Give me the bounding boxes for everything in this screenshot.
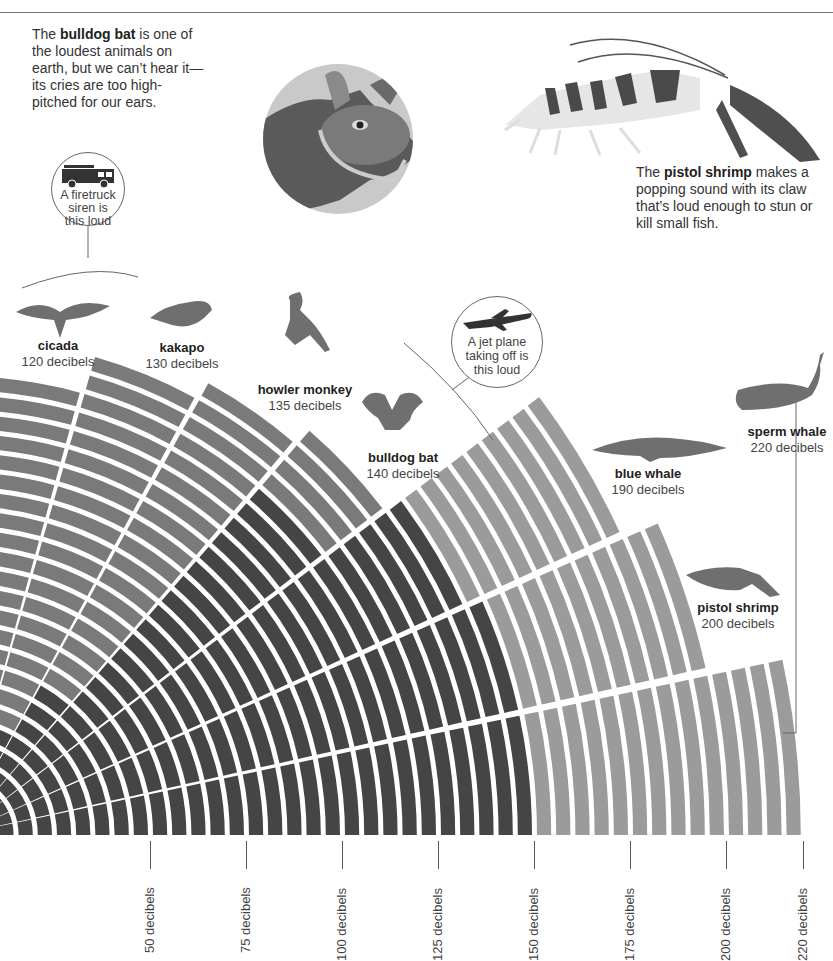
bar-segment xyxy=(224,776,244,835)
bar-segment xyxy=(130,795,148,835)
animal-decibels: 200 decibels xyxy=(702,616,775,631)
bar-segment xyxy=(205,780,225,835)
axis-tick-label: 100 decibels xyxy=(334,888,349,961)
jet-bubble: A jet plane taking off is this loud xyxy=(451,296,543,388)
bar-segment xyxy=(48,789,68,813)
bar-segment xyxy=(0,645,8,666)
animal-decibels: 120 decibels xyxy=(22,354,95,369)
sperm-whale-icon xyxy=(736,352,824,410)
axis-tick-line xyxy=(342,841,343,869)
animal-name: kakapo xyxy=(112,340,252,356)
bar-segment xyxy=(17,819,33,835)
axis-tick-label: 200 decibels xyxy=(718,888,733,961)
axis-tick-line xyxy=(150,841,151,869)
axis-tick-line xyxy=(246,841,247,869)
animal-label-cicada: cicada120 decibels xyxy=(0,338,128,370)
axis-tick-label: 175 decibels xyxy=(622,888,637,961)
animal-label-bluewhale: blue whale190 decibels xyxy=(578,466,718,498)
animal-name: sperm whale xyxy=(717,424,833,440)
axis-tick-label: 75 decibels xyxy=(238,888,253,954)
bar-segment xyxy=(84,773,106,805)
firetruck-icon xyxy=(58,163,118,189)
bar-segment xyxy=(186,784,205,835)
bar-segment xyxy=(168,788,187,835)
bar-segment xyxy=(261,768,282,835)
animal-name: howler monkey xyxy=(235,382,375,398)
bar-segment xyxy=(74,807,91,835)
bar-segment xyxy=(0,587,24,610)
bar-segment xyxy=(101,766,125,801)
bar-segment xyxy=(36,815,52,835)
firetruck-reference-arc xyxy=(22,272,138,288)
animal-label-howler: howler monkey135 decibels xyxy=(235,382,375,414)
bar-segment xyxy=(318,756,340,835)
animal-name: pistol shrimp xyxy=(668,600,808,616)
animal-label-shrimp: pistol shrimp200 decibels xyxy=(668,600,808,632)
axis-tick-line xyxy=(438,841,439,869)
cicada-icon xyxy=(16,303,110,338)
howler-monkey-icon xyxy=(285,292,330,352)
bar-segment xyxy=(111,799,129,835)
animal-decibels: 135 decibels xyxy=(269,398,342,413)
axis-tick-label: 50 decibels xyxy=(142,888,157,954)
axis-tick-line xyxy=(803,841,804,869)
airplane-icon xyxy=(461,309,533,333)
bar-segment xyxy=(337,752,360,835)
bar-segment xyxy=(55,811,71,835)
bar-segment xyxy=(149,792,167,835)
bar-segment xyxy=(299,760,321,835)
blue-whale-icon xyxy=(592,438,727,463)
animal-decibels: 130 decibels xyxy=(146,356,219,371)
bar-segment xyxy=(66,781,87,809)
axis-tick-line xyxy=(630,841,631,869)
animal-label-sperm: sperm whale220 decibels xyxy=(717,424,833,456)
bar-segment xyxy=(0,823,14,835)
animal-decibels: 220 decibels xyxy=(751,440,824,455)
axis-tick-line xyxy=(726,841,727,869)
axis-tick-line xyxy=(534,841,535,869)
animal-label-bat: bulldog bat140 decibels xyxy=(333,450,473,482)
firetruck-bubble: A firetruck siren is this loud xyxy=(51,152,125,226)
bar-segment xyxy=(0,568,29,591)
bar-segment xyxy=(0,607,19,629)
axis-tick-label: 125 decibels xyxy=(430,888,445,961)
animal-name: cicada xyxy=(0,338,128,354)
animal-name: blue whale xyxy=(578,466,718,482)
bar-segment xyxy=(92,803,109,835)
pistol-shrimp-icon xyxy=(686,567,780,597)
bar-segment xyxy=(0,626,14,647)
animal-label-kakapo: kakapo130 decibels xyxy=(112,340,252,372)
firetruck-bubble-text: A firetruck siren is this loud xyxy=(52,189,124,228)
jet-bubble-text: A jet plane taking off is this loud xyxy=(452,335,542,377)
bar-segment xyxy=(280,764,301,835)
kakapo-icon xyxy=(150,301,212,335)
animal-decibels: 190 decibels xyxy=(612,482,685,497)
axis-tick-label: 220 decibels xyxy=(795,888,810,961)
bar-segment xyxy=(243,772,264,835)
axis-tick-label: 150 decibels xyxy=(526,888,541,961)
animal-name: bulldog bat xyxy=(333,450,473,466)
animal-decibels: 140 decibels xyxy=(367,466,440,481)
